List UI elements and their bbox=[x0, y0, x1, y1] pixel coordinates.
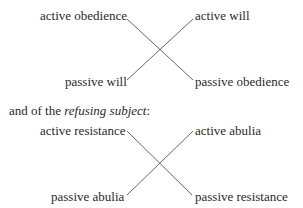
cross-lines bbox=[0, 0, 303, 208]
